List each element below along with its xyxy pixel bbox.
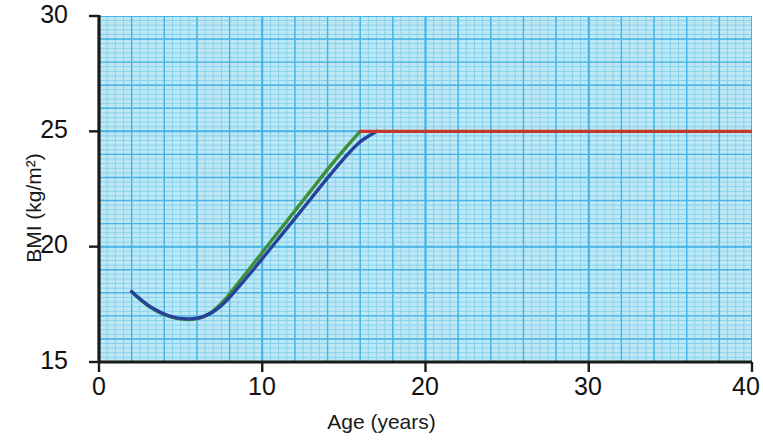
- y-tick-label-30: 30: [22, 0, 68, 29]
- annotation-men-and-women: Men and women: [414, 98, 562, 121]
- y-tick-label-15: 15: [22, 346, 68, 375]
- series-line-boys: [132, 131, 377, 319]
- y-tick-label-20: 20: [22, 230, 68, 259]
- x-tick-label-30: 30: [558, 372, 618, 401]
- x-axis-title: Age (years): [0, 410, 763, 434]
- series-line-girls: [132, 131, 361, 319]
- series-label-boys: Boys: [303, 165, 348, 211]
- x-tick-label-20: 20: [395, 372, 455, 401]
- x-tick-label-0: 0: [69, 372, 129, 401]
- bmi-growth-chart: BMI (kg/m²) Age (years) 30 25 20 15 0 10…: [0, 0, 763, 446]
- annotation-who-title: Overweight BMI according to WHO: [353, 52, 664, 75]
- x-tick-label-40: 40: [716, 372, 763, 401]
- series-label-girls: Girls: [237, 179, 280, 223]
- x-tick-label-10: 10: [232, 372, 292, 401]
- y-tick-label-25: 25: [22, 115, 68, 144]
- series-layer: [132, 131, 752, 319]
